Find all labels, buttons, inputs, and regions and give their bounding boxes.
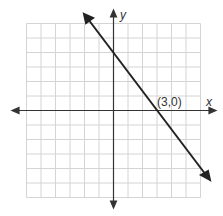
- y-axis-label: y: [120, 8, 126, 22]
- point-label: (3,0): [157, 95, 182, 109]
- coordinate-plane: [0, 0, 223, 216]
- x-axis-label: x: [206, 95, 212, 109]
- plotted-line: [84, 14, 210, 180]
- y-axis: [111, 10, 117, 208]
